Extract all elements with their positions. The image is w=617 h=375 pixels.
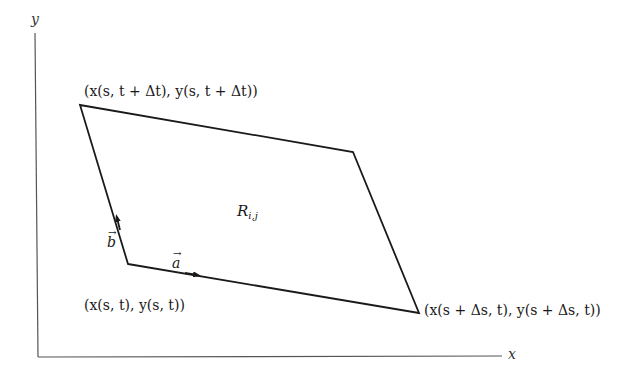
region-label-subscript: i,j bbox=[248, 210, 257, 221]
x-axis-label: x bbox=[508, 347, 516, 361]
vector-b-label: → b bbox=[107, 235, 116, 249]
x-axis bbox=[38, 356, 502, 357]
y-axis-label: y bbox=[31, 12, 39, 26]
vector-arrow-icon: → bbox=[108, 228, 116, 238]
bottom-right-point-label: (x(s + Δs, t), y(s + Δs, t)) bbox=[424, 303, 601, 317]
region-label: Ri,j bbox=[237, 204, 258, 221]
region-label-base: R bbox=[237, 202, 248, 220]
vector-a-label: → a bbox=[172, 256, 180, 270]
origin-point-label: (x(s, t), y(s, t)) bbox=[84, 298, 185, 312]
vector-arrow-icon: → bbox=[173, 249, 181, 259]
diagram-canvas bbox=[0, 0, 617, 375]
y-axis bbox=[35, 33, 38, 357]
top-left-point-label: (x(s, t + Δt), y(s, t + Δt)) bbox=[84, 84, 258, 98]
